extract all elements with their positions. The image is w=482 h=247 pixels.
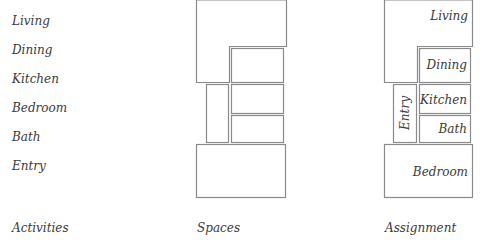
assignment-plan: Living Dining Kitchen Bath Bedroom Entry <box>385 0 473 198</box>
diagram-canvas: Living Dining Kitchen Bath Bedroom Entry <box>0 0 482 247</box>
room-label-bath: Bath <box>437 122 467 136</box>
space-bedroom <box>197 145 286 198</box>
caption-spaces: Spaces <box>197 221 240 235</box>
space-dining <box>232 49 284 83</box>
caption-activities: Activities <box>12 221 69 235</box>
room-label-entry: Entry <box>398 96 412 131</box>
space-bath <box>232 116 284 143</box>
room-label-dining: Dining <box>426 58 468 72</box>
room-label-living: Living <box>429 9 468 23</box>
space-kitchen <box>232 85 284 114</box>
caption-assignment: Assignment <box>385 221 456 235</box>
room-label-kitchen: Kitchen <box>419 93 467 107</box>
spaces-plan <box>197 0 287 198</box>
room-label-bedroom: Bedroom <box>412 165 468 179</box>
space-entry <box>207 85 229 143</box>
